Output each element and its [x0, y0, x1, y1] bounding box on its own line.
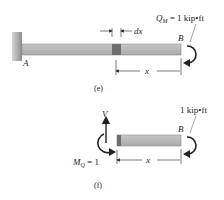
point-b-label-f: B	[178, 124, 184, 134]
figure-e: dx A B x QM = 1 kip•ft (e)	[12, 13, 204, 93]
dx-label: dx	[134, 26, 143, 36]
caption-f: (f)	[94, 181, 102, 190]
x-label-e: x	[144, 66, 149, 76]
internal-moment: MQ = 1	[72, 134, 116, 168]
cantilever-beam	[22, 44, 181, 55]
beam-segment	[117, 135, 181, 146]
cut-section	[117, 135, 121, 146]
caption-e: (e)	[94, 84, 103, 93]
x-dimension-e: x	[116, 58, 181, 76]
point-b-label: B	[178, 33, 184, 43]
shear-label: V	[102, 109, 109, 119]
x-dimension-f: x	[117, 149, 181, 165]
internal-moment-label: MQ = 1	[72, 157, 99, 168]
moment-label: QM = 1 kip•ft	[156, 13, 204, 24]
shear-force: V	[102, 109, 109, 143]
fixed-wall	[12, 32, 22, 61]
differential-element	[112, 44, 121, 55]
end-moment: 1 kip•ft	[180, 105, 207, 158]
dx-dimension: dx	[100, 26, 143, 37]
x-label-f: x	[145, 155, 150, 165]
beam-diagram: dx A B x QM = 1 kip•ft (e) B V	[0, 0, 224, 200]
end-moment-label: 1 kip•ft	[180, 105, 207, 115]
point-a-label: A	[22, 58, 29, 68]
figure-f: B V MQ = 1 1 kip•ft x (f)	[72, 105, 207, 190]
